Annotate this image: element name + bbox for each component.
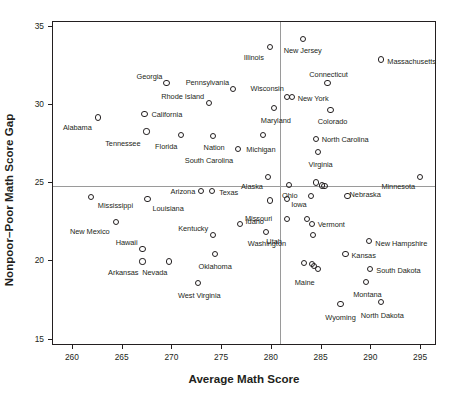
data-point-label: Nebraska <box>350 191 381 198</box>
data-point[interactable] <box>363 279 369 285</box>
data-point-label: Michigan <box>246 146 275 153</box>
data-point-label: New York <box>298 95 329 102</box>
data-point[interactable] <box>284 216 290 222</box>
data-point-label: North Dakota <box>361 312 404 319</box>
y-axis-tick <box>48 260 52 261</box>
data-point-label: Iowa <box>53 201 307 208</box>
data-point[interactable] <box>95 114 101 120</box>
y-axis-tick <box>48 182 52 183</box>
y-axis-tick <box>48 339 52 340</box>
y-axis-tick-label: 25 <box>0 177 44 187</box>
data-point[interactable] <box>271 105 277 111</box>
data-point-label: Maine <box>53 279 315 286</box>
data-point-unlabeled[interactable] <box>344 193 350 199</box>
data-point-label: California <box>152 111 183 118</box>
data-point-label: Colorado <box>318 118 348 125</box>
data-point-label: Idaho <box>53 218 264 225</box>
data-point[interactable] <box>300 36 306 42</box>
data-point[interactable] <box>327 107 333 113</box>
data-point-label: Kansas <box>351 252 375 259</box>
data-point[interactable] <box>289 94 295 100</box>
x-axis-tick-label: 270 <box>164 352 178 362</box>
data-point[interactable] <box>337 301 343 307</box>
data-point-unlabeled[interactable] <box>311 263 317 269</box>
y-axis-tick-label: 35 <box>0 21 44 31</box>
y-axis-tick-label: 15 <box>0 334 44 344</box>
data-point[interactable] <box>378 299 384 305</box>
data-point[interactable] <box>315 149 321 155</box>
data-point[interactable] <box>308 193 314 199</box>
data-point-label: Utah <box>53 238 282 245</box>
y-axis-tick-label: 20 <box>0 255 44 265</box>
data-point-label: South Carolina <box>53 157 233 164</box>
data-point[interactable] <box>417 174 423 180</box>
data-point[interactable] <box>178 132 184 138</box>
data-point[interactable] <box>366 238 372 244</box>
data-point[interactable] <box>342 251 348 257</box>
data-point-label: Nevada <box>53 269 167 276</box>
x-axis-tick-label: 260 <box>65 352 79 362</box>
data-point-label: Illinois <box>53 54 264 61</box>
x-axis-tick-label: 295 <box>413 352 427 362</box>
y-axis-tick-label: 30 <box>0 99 44 109</box>
data-point[interactable] <box>210 232 216 238</box>
data-point-label: Vermont <box>318 221 345 228</box>
data-point-label: New Hampshire <box>375 240 427 247</box>
data-point-label: Virginia <box>309 161 333 168</box>
x-axis-tick <box>122 345 123 349</box>
data-point-unlabeled[interactable] <box>310 232 316 238</box>
x-axis-tick-label: 265 <box>115 352 129 362</box>
data-point[interactable] <box>212 251 218 257</box>
data-point[interactable] <box>235 146 241 152</box>
y-axis-tick <box>48 104 52 105</box>
data-point[interactable] <box>206 100 212 106</box>
data-point-label: Rhode Island <box>53 93 204 100</box>
data-point-label: Connecticut <box>309 71 347 78</box>
x-axis-tick <box>420 345 421 349</box>
x-axis-tick <box>271 345 272 349</box>
data-point-label: Montana <box>353 291 381 298</box>
x-axis-tick <box>370 345 371 349</box>
data-point-label: New Jersey <box>284 47 322 54</box>
data-point[interactable] <box>267 44 273 50</box>
data-point-label: Minnesota <box>53 183 415 190</box>
data-point-unlabeled[interactable] <box>319 182 325 188</box>
data-point-label: Oklahoma <box>199 263 232 270</box>
data-point[interactable] <box>260 132 266 138</box>
data-point-label: Alabama <box>53 124 92 131</box>
data-point-label: Wyoming <box>325 314 355 321</box>
data-point-label: North Carolina <box>322 136 369 143</box>
data-point[interactable] <box>378 56 384 62</box>
y-axis-tick <box>48 26 52 27</box>
data-point-label: Florida <box>53 143 177 150</box>
data-point[interactable] <box>313 136 319 142</box>
data-point-label: Maryland <box>261 117 291 124</box>
data-point[interactable] <box>309 221 315 227</box>
x-axis-tick-label: 280 <box>264 352 278 362</box>
data-point-unlabeled[interactable] <box>284 196 290 202</box>
data-point-unlabeled[interactable] <box>313 179 319 185</box>
data-point[interactable] <box>263 229 269 235</box>
data-point-unlabeled[interactable] <box>301 260 307 266</box>
x-axis-tick-label: 290 <box>363 352 377 362</box>
x-axis-tick-label: 275 <box>214 352 228 362</box>
x-axis-tick <box>72 345 73 349</box>
x-axis-title: Average Math Score <box>52 372 436 385</box>
data-point[interactable] <box>367 266 373 272</box>
data-point[interactable] <box>210 133 216 139</box>
data-point[interactable] <box>139 246 145 252</box>
data-point-label: West Virginia <box>178 292 221 299</box>
data-point[interactable] <box>324 80 330 86</box>
data-point-label: Wisconsin <box>53 85 284 92</box>
x-axis-tick <box>221 345 222 349</box>
data-point[interactable] <box>166 258 172 264</box>
data-point[interactable] <box>139 258 145 264</box>
data-point-label: South Dakota <box>376 267 420 274</box>
data-point[interactable] <box>143 128 149 134</box>
scatter-plot-figure: MississippiAlabamaNew MexicoCaliforniaTe… <box>0 0 453 400</box>
data-point[interactable] <box>265 174 271 180</box>
data-point-label: Kentucky <box>53 225 208 232</box>
data-point[interactable] <box>141 111 147 117</box>
data-point-unlabeled[interactable] <box>304 216 310 222</box>
plot-area: MississippiAlabamaNew MexicoCaliforniaTe… <box>52 21 436 345</box>
